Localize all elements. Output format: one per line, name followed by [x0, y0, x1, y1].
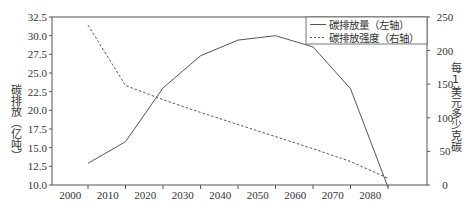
x-axis: 200020102020203020402050206020702080: [59, 185, 388, 201]
x-tick-label: 2030: [172, 189, 195, 201]
left-tick-label: 15.0: [28, 142, 48, 154]
x-tick-label: 2010: [97, 189, 120, 201]
left-tick-label: 30.0: [28, 30, 48, 42]
x-tick-label: 2020: [134, 189, 157, 201]
left-tick-label: 20.0: [28, 104, 48, 116]
x-tick-label: 2040: [209, 189, 232, 201]
left-axis-label: 碳排放（亿吨）: [9, 84, 21, 161]
x-tick-label: 2000: [59, 189, 82, 201]
left-tick-label: 12.5: [28, 160, 48, 172]
x-tick-label: 2050: [247, 189, 270, 201]
left-tick-label: 25.0: [28, 67, 48, 79]
x-tick-label: 2080: [359, 189, 382, 201]
x-tick-label: 2070: [322, 189, 345, 201]
series-lines: [88, 25, 388, 187]
right-axis-label: 每1美元多少克碳: [449, 62, 461, 152]
legend-label-intensity: 碳排放强度（右轴）: [329, 32, 419, 44]
dual-axis-line-chart: 10.012.515.017.520.022.525.027.530.032.5…: [0, 0, 472, 211]
left-tick-label: 27.5: [28, 48, 48, 60]
emissions-line: [88, 36, 388, 188]
left-tick-label: 32.5: [28, 11, 48, 23]
left-tick-label: 22.5: [28, 86, 48, 98]
intensity-line: [88, 25, 388, 178]
left-tick-label: 10.0: [28, 179, 48, 191]
right-tick-label: 200: [437, 45, 454, 57]
x-tick-label: 2060: [284, 189, 307, 201]
left-tick-label: 17.5: [28, 123, 48, 135]
right-tick-label: 0: [442, 179, 448, 191]
legend: 碳排放量（左轴） 碳排放强度（右轴）: [306, 17, 427, 44]
right-tick-label: 250: [437, 11, 454, 23]
left-y-axis: 10.012.515.017.520.022.525.027.530.032.5: [28, 11, 52, 191]
legend-label-emissions: 碳排放量（左轴）: [329, 19, 409, 31]
